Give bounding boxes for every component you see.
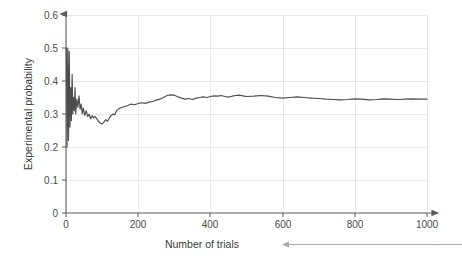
x-axis-title: Number of trials [165, 238, 239, 250]
y-tick-labels: 0.6 0.5 0.4 0.3 0.2 0.1 0 [44, 10, 58, 219]
x-tick-label: 1000 [416, 219, 439, 230]
y-tick-label: 0 [52, 208, 58, 219]
horizontal-gridlines [66, 15, 427, 180]
x-tick-label: 200 [130, 219, 147, 230]
y-tick-label: 0.6 [44, 10, 58, 21]
y-axis-title: Experimental probability [22, 57, 34, 170]
line-chart: 0.6 0.5 0.4 0.3 0.2 0.1 0 0 200 400 600 … [0, 0, 462, 266]
x-tick-label: 0 [63, 219, 69, 230]
x-tick-marks [66, 213, 427, 217]
y-tick-label: 0.5 [44, 43, 58, 54]
y-tick-label: 0.2 [44, 142, 58, 153]
y-tick-marks [62, 15, 66, 213]
chart-figure: 0.6 0.5 0.4 0.3 0.2 0.1 0 0 200 400 600 … [0, 0, 462, 266]
x-tick-label: 400 [202, 219, 219, 230]
y-tick-label: 0.1 [44, 175, 58, 186]
x-tick-labels: 0 200 400 600 800 1000 [63, 219, 438, 230]
data-series-line [66, 48, 427, 147]
y-tick-label: 0.4 [44, 76, 58, 87]
x-tick-label: 800 [347, 219, 364, 230]
x-tick-label: 600 [275, 219, 292, 230]
y-tick-label: 0.3 [44, 109, 58, 120]
